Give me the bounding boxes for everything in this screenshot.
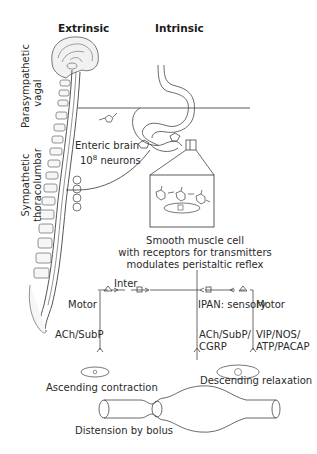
right-transmitters-line2: ATP/PACAP — [256, 341, 309, 353]
smooth-muscle-line1: Smooth muscle cell — [100, 235, 290, 247]
sympathetic-ganglia — [73, 176, 81, 211]
smooth-muscle-cell — [164, 203, 200, 213]
smooth-muscle-line2: with receptors for transmitters — [100, 247, 290, 259]
neuron-icon — [99, 113, 117, 122]
ascending-contraction-label: Ascending contraction — [46, 382, 158, 394]
sympathetic-line1: Sympathetic — [20, 145, 32, 225]
sympathetic-label: Sympathetic thoracolumbar — [20, 145, 44, 225]
mid-transmitters-line1: ACh/SubP/ — [199, 329, 251, 341]
distension-label: Distension by bolus — [75, 425, 173, 437]
brain-illustration — [52, 37, 99, 78]
parasympathetic-line1: Parasympathetic — [20, 58, 32, 128]
header-extrinsic: Extrinsic — [58, 22, 109, 34]
enteric-neurons-label: 108 neurons — [80, 152, 141, 167]
magnified-region — [186, 140, 196, 150]
motor-left-label: Motor — [68, 299, 97, 311]
sympathetic-line2: thoracolumbar — [32, 145, 44, 225]
receptor-molecules — [156, 186, 210, 204]
header-intrinsic: Intrinsic — [155, 22, 204, 34]
smooth-muscle-line3: modulates peristaltic reflex — [100, 259, 290, 271]
right-transmitters-line1: VIP/NOS/ — [256, 329, 300, 341]
enteric-brain-label: Enteric brain — [75, 140, 139, 152]
left-transmitters: ACh/SubP — [55, 329, 103, 341]
parasympathetic-label: Parasympathetic vagal — [20, 58, 44, 128]
contracting-cell — [81, 367, 109, 377]
mid-transmitters-line2: CGRP — [199, 341, 227, 353]
descending-relaxation-label: Descending relaxation — [200, 375, 312, 387]
inter-label: Inter — [114, 278, 137, 290]
parasympathetic-line2: vagal — [32, 58, 44, 128]
motor-right-label: Motor — [256, 299, 285, 311]
muscle-cell-box — [150, 175, 214, 227]
